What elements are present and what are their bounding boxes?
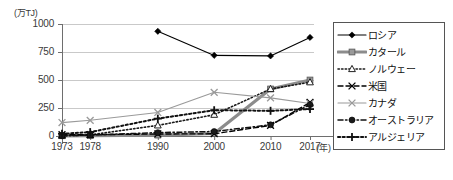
legend-key-icon	[337, 96, 367, 110]
marker-circle	[211, 129, 217, 135]
x-axis-tick-label: 2010	[251, 141, 291, 152]
marker-square	[349, 49, 355, 55]
legend-item-label: オーストラリア	[368, 112, 434, 127]
y-axis-tick-label: 750	[20, 46, 54, 57]
legend-item-label: カナダ	[368, 95, 396, 110]
x-axis-tick-label: 1990	[138, 141, 178, 152]
marker-diamond	[211, 52, 217, 58]
x-axis-tick-label: 2017	[290, 141, 330, 152]
legend-item-label: アルジェリア	[368, 129, 424, 144]
series-line	[62, 92, 310, 122]
marker-circle	[155, 130, 161, 136]
legend-marker	[349, 117, 355, 123]
y-axis-tick-label: 0	[20, 130, 54, 141]
legend-marker	[349, 49, 355, 55]
series-line	[62, 109, 310, 134]
chart-root: (万TJ) ロシアカタールノルウェー米国カナダオーストラリアアルジェリア (年)…	[0, 0, 453, 180]
y-axis-tick-label: 1000	[20, 18, 54, 29]
marker-diamond	[349, 31, 355, 37]
marker-diamond	[155, 28, 161, 34]
marker-diamond	[307, 34, 313, 40]
data-series	[155, 28, 313, 59]
legend-item-label: カタール	[368, 44, 406, 59]
legend-key-icon	[337, 45, 367, 59]
y-axis-tick-label: 250	[20, 102, 54, 113]
legend-key-icon	[337, 62, 367, 76]
legend-item[interactable]: 米国	[337, 77, 442, 94]
marker-circle	[268, 122, 274, 128]
y-axis-tick-label: 500	[20, 74, 54, 85]
marker-circle	[349, 117, 355, 123]
legend-item[interactable]: ロシア	[337, 26, 442, 43]
legend-item-label: ノルウェー	[368, 61, 415, 76]
legend-key-icon	[337, 79, 367, 93]
legend-item[interactable]: アルジェリア	[337, 128, 442, 145]
legend-item[interactable]: カタール	[337, 43, 442, 60]
chart-legend: ロシアカタールノルウェー米国カナダオーストラリアアルジェリア	[333, 22, 445, 150]
x-axis-tick-label: 1978	[70, 141, 110, 152]
legend-item[interactable]: ノルウェー	[337, 60, 442, 77]
legend-key-icon	[337, 113, 367, 127]
data-series	[59, 77, 313, 139]
legend-key-icon	[337, 130, 367, 144]
legend-key-icon	[337, 28, 367, 42]
legend-marker	[349, 31, 355, 37]
marker-diamond	[267, 53, 273, 59]
legend-item-label: ロシア	[368, 27, 396, 42]
legend-item[interactable]: オーストラリア	[337, 111, 442, 128]
legend-item[interactable]: カナダ	[337, 94, 442, 111]
data-series	[59, 89, 314, 126]
legend-item-label: 米国	[368, 78, 387, 93]
legend-marker	[348, 133, 356, 141]
grid-lines	[62, 25, 314, 109]
x-axis-tick-label: 2000	[194, 141, 234, 152]
data-series-group	[58, 28, 314, 139]
